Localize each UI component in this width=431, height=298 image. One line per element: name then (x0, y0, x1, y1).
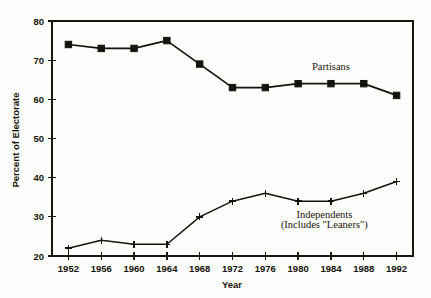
x-tick-label: 1968 (189, 263, 210, 274)
data-point-marker (262, 84, 268, 90)
x-tick-label: 1952 (58, 263, 79, 274)
y-tick-label: 60 (33, 94, 44, 105)
data-point-marker (164, 37, 170, 43)
y-tick-label: 80 (33, 16, 44, 27)
x-tick-label: 1988 (353, 263, 374, 274)
data-point-marker (229, 84, 235, 90)
x-tick-label: 1992 (386, 263, 407, 274)
x-tick-label: 1956 (91, 263, 112, 274)
data-point-marker (131, 45, 137, 51)
x-tick-label: 1984 (320, 263, 342, 274)
x-tick-label: 1980 (288, 263, 309, 274)
chart-page: 20304050607080 1952195619601964196819721… (0, 0, 431, 298)
y-axis-title: Percent of Electorate (10, 92, 21, 187)
x-tick-label: 1964 (156, 263, 178, 274)
data-point-marker (295, 80, 301, 86)
data-point-marker (328, 80, 334, 86)
y-tick-label: 50 (33, 133, 44, 144)
independents-sublabel: (Includes "Leaners") (281, 219, 368, 231)
data-point-marker (393, 92, 399, 98)
annotations-group: PartisansIndependents(Includes "Leaners"… (281, 61, 368, 231)
data-point-marker (65, 41, 71, 47)
y-tick-label: 70 (33, 55, 44, 66)
x-tick-label: 1976 (255, 263, 276, 274)
data-point-marker (98, 45, 104, 51)
x-tick-label: 1960 (123, 263, 144, 274)
y-tick-label: 20 (33, 251, 44, 262)
partisans-label: Partisans (312, 61, 350, 72)
line-chart: 20304050607080 1952195619601964196819721… (0, 0, 431, 298)
y-tick-label: 30 (33, 211, 44, 222)
x-tick-label: 1972 (222, 263, 243, 274)
y-tick-label: 40 (33, 172, 44, 183)
x-axis-title: Year (222, 279, 242, 290)
data-point-marker (361, 80, 367, 86)
data-point-marker (196, 61, 202, 67)
